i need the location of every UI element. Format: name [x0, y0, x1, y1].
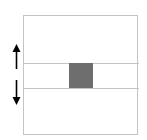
gray-block	[69, 63, 93, 88]
arrow-down-icon	[12, 79, 21, 105]
arrow-up-icon	[12, 44, 21, 70]
band-bottom-line	[23, 88, 139, 89]
